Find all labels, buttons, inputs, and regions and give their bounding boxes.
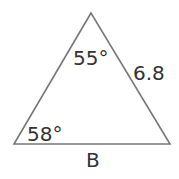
triangle-diagram: 55° 6.8 58° B: [0, 0, 179, 179]
apex-angle-label: 55°: [73, 46, 108, 70]
right-side-length-label: 6.8: [133, 61, 165, 85]
bottom-left-angle-label: 58°: [27, 122, 62, 146]
base-side-label: B: [86, 148, 100, 172]
